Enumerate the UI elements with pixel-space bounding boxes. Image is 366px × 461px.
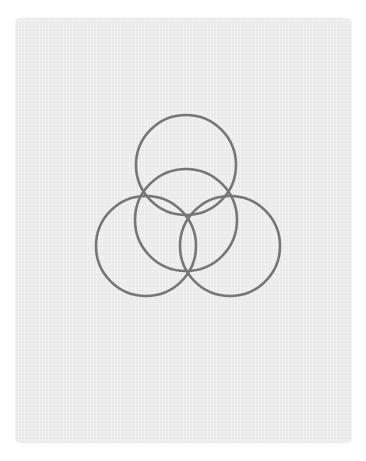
- interlocking-circles-graphic: [0, 0, 366, 461]
- top-circle: [136, 115, 236, 215]
- circle-group: [96, 115, 280, 296]
